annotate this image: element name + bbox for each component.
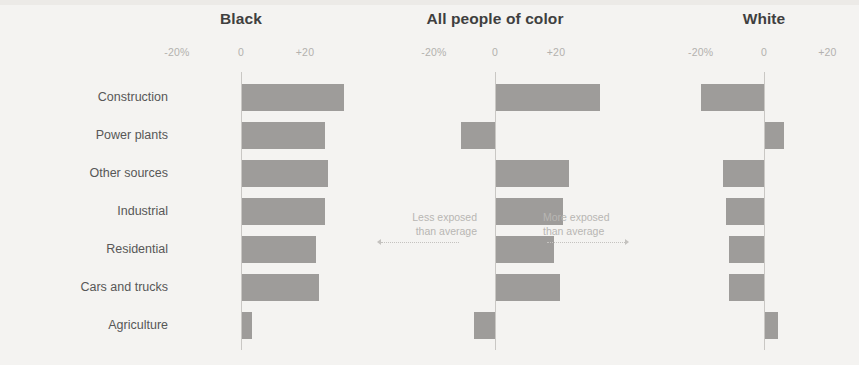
annotation-line-1: Less exposed — [377, 210, 477, 224]
bar — [726, 198, 764, 225]
category-label: Cars and trucks — [0, 281, 168, 294]
x-tick-label: -20% — [147, 46, 207, 58]
bar — [729, 236, 764, 263]
bar — [496, 84, 600, 111]
annotation-line-2: than average — [377, 224, 477, 238]
annotation-arrow-right — [547, 242, 625, 244]
bar — [242, 198, 325, 225]
bar — [242, 160, 328, 187]
bar — [729, 274, 764, 301]
category-label: Residential — [0, 243, 168, 256]
x-tick-label: 0 — [734, 46, 794, 58]
annotation-left: Less exposedthan average — [377, 210, 477, 238]
annotation-arrow-left — [381, 242, 459, 244]
bar — [242, 122, 325, 149]
annotation-line-2: than average — [543, 224, 643, 238]
annotation-arrowhead-right — [625, 239, 629, 245]
diverging-bar-chart-small-multiples: ConstructionPower plantsOther sourcesInd… — [0, 0, 859, 365]
page-edge-strip — [0, 0, 859, 5]
category-label: Industrial — [0, 205, 168, 218]
x-tick-label: -20% — [404, 46, 464, 58]
x-tick-label: 0 — [465, 46, 525, 58]
category-label: Agriculture — [0, 319, 168, 332]
bar — [765, 312, 778, 339]
bar — [701, 84, 764, 111]
bar — [723, 160, 764, 187]
x-tick-label: +20 — [275, 46, 335, 58]
category-label: Other sources — [0, 167, 168, 180]
zero-reference-line — [764, 72, 765, 350]
bar — [496, 236, 554, 263]
bar — [242, 312, 252, 339]
panel-title-1: Black — [131, 10, 351, 28]
bar — [242, 84, 344, 111]
x-tick-label: +20 — [526, 46, 586, 58]
bar — [496, 160, 569, 187]
annotation-line-1: More exposed — [543, 210, 643, 224]
bar — [242, 236, 316, 263]
x-tick-label: -20% — [671, 46, 731, 58]
category-label: Power plants — [0, 129, 168, 142]
panel-title-2: All people of color — [385, 10, 605, 28]
bar — [496, 274, 560, 301]
bar — [461, 122, 495, 149]
annotation-right: More exposedthan average — [543, 210, 643, 238]
category-label: Construction — [0, 91, 168, 104]
panel-title-3: White — [654, 10, 859, 28]
x-tick-label: 0 — [211, 46, 271, 58]
bar — [765, 122, 784, 149]
x-tick-label: +20 — [797, 46, 857, 58]
annotation-arrowhead-left — [377, 239, 381, 245]
bar — [242, 274, 319, 301]
bar — [474, 312, 495, 339]
